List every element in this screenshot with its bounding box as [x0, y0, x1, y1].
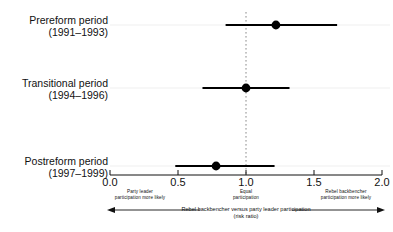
row-label-prereform-name: Prereform period [29, 14, 108, 26]
right-arrow-head-icon [377, 207, 385, 213]
axis-caption-line1: Rebel backbencher versus party leader pa… [146, 206, 346, 213]
axis-caption-line2: (risk ratio) [146, 213, 346, 220]
x-tick-label-0: 0.0 [96, 176, 124, 188]
estimate-marker-transitional [242, 84, 251, 93]
row-label-prereform: Prereform period (1991–1993) [0, 14, 108, 38]
x-tick-label-3: 1.5 [300, 176, 328, 188]
data-row-postreform [175, 162, 274, 171]
annotation-center: Equal participation [206, 189, 286, 200]
x-tick-label-4: 2.0 [368, 176, 393, 188]
estimate-marker-postreform [212, 162, 221, 171]
row-label-postreform-name: Postreform period [25, 155, 108, 167]
data-row-prereform [226, 21, 338, 30]
annotation-right: Rebel backbencher participation more lik… [306, 189, 386, 200]
row-label-transitional: Transitional period (1994–1996) [0, 77, 108, 101]
row-label-transitional-name: Transitional period [22, 77, 108, 89]
row-label-prereform-years: (1991–1993) [0, 26, 108, 38]
x-axis [110, 170, 382, 175]
axis-caption: Rebel backbencher versus party leader pa… [146, 206, 346, 219]
row-label-postreform-years: (1997–1999) [0, 167, 108, 179]
row-label-transitional-years: (1994–1996) [0, 89, 108, 101]
x-tick-label-1: 0.5 [164, 176, 192, 188]
annotation-left: Party leader participation more likely [100, 189, 180, 200]
annotation-center-line2: participation [206, 195, 286, 201]
annotation-right-line2: participation more likely [306, 195, 386, 201]
row-label-postreform: Postreform period (1997–1999) [0, 155, 108, 179]
x-tick-label-2: 1.0 [232, 176, 260, 188]
left-arrow-head-icon [107, 207, 115, 213]
estimate-marker-prereform [272, 21, 281, 30]
annotation-left-line2: participation more likely [100, 195, 180, 201]
data-row-transitional [202, 84, 289, 93]
